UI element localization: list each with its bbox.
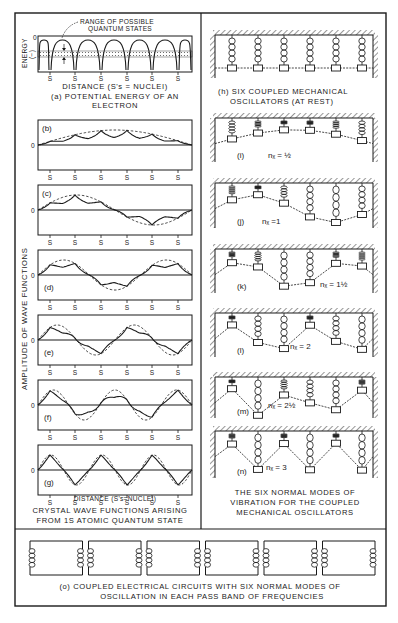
mode-nx-m: nₓ = 2½ [268, 401, 296, 410]
circuit-5 [263, 541, 318, 575]
svg-text:S: S [73, 75, 78, 82]
oscillator-mode-n: (n)nₓ = 3 [210, 426, 378, 478]
panel-a-potential-energy: RANGE OF POSSIBLE QUANTUM STATES 0 ENERG… [21, 18, 192, 110]
distance-axis-label: DISTANCE (S's = NUCLEI) [62, 82, 168, 91]
svg-text:0: 0 [31, 467, 35, 474]
wave-caption-1: CRYSTAL WAVE FUNCTIONS ARISING [33, 506, 188, 515]
svg-text:S: S [73, 434, 78, 441]
svg-text:S: S [99, 369, 104, 376]
circuits-caption-2: OSCILLATION IN EACH PASS BAND OF FREQUEN… [100, 592, 324, 601]
circuits-caption-1: (o) COUPLED ELECTRICAL CIRCUITS WITH SIX… [59, 582, 340, 591]
svg-text:S: S [48, 174, 53, 181]
svg-text:S: S [99, 304, 104, 311]
svg-text:S: S [48, 434, 53, 441]
svg-text:S: S [73, 239, 78, 246]
svg-text:S: S [176, 434, 181, 441]
oscillator-mode-i: (i)nₓ = ½ [210, 113, 378, 162]
svg-text:0: 0 [31, 142, 35, 149]
svg-text:S: S [99, 239, 104, 246]
mode-label-l: (l) [237, 346, 244, 355]
panel-label-g: (g) [44, 478, 54, 487]
rest-caption-1: (h) SIX COUPLED MECHANICAL [218, 87, 348, 96]
amplitude-axis-label: AMPLITUDE OF WAVE FUNCTIONS [20, 248, 29, 390]
mode-label-n: (n) [237, 467, 247, 476]
wave-panel-b: 0(b)SSSSSS [31, 120, 192, 181]
oscillator-mode-m: (m)nₓ = 2½ [210, 372, 378, 418]
circuit-4 [205, 541, 260, 575]
svg-text:S: S [176, 239, 181, 246]
panel-a-caption: (a) POTENTIAL ENERGY OF AN [51, 92, 179, 101]
svg-text:S: S [125, 174, 130, 181]
mode-label-i: (i) [237, 151, 244, 160]
mode-nx-l: nₓ = 2 [290, 342, 311, 351]
circuit-1 [29, 541, 84, 575]
svg-text:S: S [48, 499, 53, 506]
svg-text:S: S [125, 434, 130, 441]
zero-label: 0 [33, 34, 37, 41]
svg-text:S: S [125, 239, 130, 246]
svg-text:S: S [150, 75, 155, 82]
mode-nx-k: nₓ = 1½ [320, 280, 348, 289]
svg-text:S: S [176, 174, 181, 181]
wave-panel-d: 0(d)SSSSSS [31, 250, 192, 311]
panel-label-d: (d) [44, 283, 54, 292]
svg-text:S: S [48, 239, 53, 246]
panel-label-b: (b) [42, 124, 52, 133]
physics-figure: RANGE OF POSSIBLE QUANTUM STATES 0 ENERG… [0, 0, 398, 623]
svg-text:S: S [150, 239, 155, 246]
panel-label-c: (c) [42, 189, 52, 198]
wave-panel-c: 0(c)SSSSSS [31, 185, 192, 246]
svg-text:S: S [48, 75, 53, 82]
energy-axis-label: ENERGY [21, 38, 28, 68]
oscillator-mode-l: (l)nₓ = 2 [210, 308, 378, 357]
modes-caption-3: MECHANICAL OSCILLATORS [236, 508, 353, 517]
mode-nx-i: nₓ = ½ [268, 151, 291, 160]
wave-function-panels: 0(b)SSSSSS0(c)SSSSSS0(d)SSSSSS0(e)SSSSSS… [31, 120, 192, 506]
mode-nx-j: nₓ =1 [262, 217, 281, 226]
wave-panel-e: 0(e)SSSSSS [31, 315, 192, 376]
svg-text:0: 0 [31, 402, 35, 409]
svg-text:S: S [125, 75, 130, 82]
panel-label-e: (e) [44, 348, 54, 357]
wave-caption-2: FROM 1S ATOMIC QUANTUM STATE [36, 516, 183, 525]
svg-text:S: S [99, 174, 104, 181]
svg-text:S: S [176, 75, 181, 82]
svg-text:S: S [150, 304, 155, 311]
rest-caption-2: OSCILLATORS (AT REST) [230, 97, 334, 106]
svg-text:S: S [125, 369, 130, 376]
circuit-6 [322, 541, 377, 575]
svg-text:S: S [73, 369, 78, 376]
wave-distance-label: DISTANCE (S's=NUCLEI) [74, 495, 156, 503]
svg-text:S: S [73, 304, 78, 311]
svg-text:S: S [48, 369, 53, 376]
svg-text:S: S [99, 434, 104, 441]
oscillator-mode-k: (k)nₓ = 1½ [210, 244, 378, 293]
svg-text:S: S [150, 174, 155, 181]
range-annotation: RANGE OF POSSIBLE [80, 18, 154, 25]
svg-text:S: S [150, 369, 155, 376]
mode-nx-n: nₓ = 3 [266, 463, 287, 472]
svg-text:S: S [48, 304, 53, 311]
modes-caption-1: THE SIX NORMAL MODES OF [235, 488, 355, 497]
circuit-2 [88, 541, 143, 575]
oscillator-mode-j: (j)nₓ =1 [210, 178, 378, 228]
mode-label-j: (j) [237, 217, 244, 226]
svg-text:S: S [73, 174, 78, 181]
svg-text:0: 0 [31, 272, 35, 279]
oscillator-rest [210, 30, 378, 78]
svg-text:S: S [125, 304, 130, 311]
svg-text:0: 0 [31, 207, 35, 214]
mode-label-m: (m) [237, 407, 249, 416]
svg-text:S: S [176, 304, 181, 311]
panel-label-f: (f) [44, 413, 52, 422]
svg-text:0: 0 [31, 337, 35, 344]
wave-panel-f: 0(f)SSSSSS [31, 380, 192, 441]
coupled-circuits [29, 541, 376, 575]
svg-text:ELECTRON: ELECTRON [92, 101, 138, 110]
mode-label-k: (k) [237, 282, 247, 291]
range-annotation-2: QUANTUM STATES [88, 25, 152, 33]
svg-text:S: S [99, 75, 104, 82]
svg-text:S: S [150, 434, 155, 441]
modes-caption-2: VIBRATION FOR THE COUPLED [230, 498, 359, 507]
circuit-3 [146, 541, 201, 575]
